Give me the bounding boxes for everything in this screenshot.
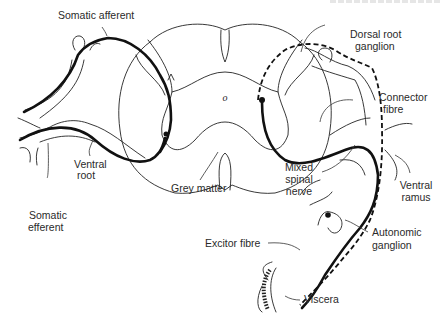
label-connector-fibre-line1: Connector [379, 92, 427, 103]
label-connector-fibre-line2: fibre [383, 104, 403, 115]
label-somatic-afferent: Somatic afferent [58, 10, 134, 21]
label-autonomic-ganglion-line2: ganglion [372, 240, 412, 251]
label-excitor-fibre: Excitor fibre [205, 238, 260, 249]
label-dorsal-root-ganglion-line2: ganglion [355, 41, 395, 52]
label-ventral-root-line2: root [77, 170, 95, 181]
label-dorsal-root-ganglion-line1: Dorsal root [350, 29, 401, 40]
somatic-afferent-pathway [24, 38, 171, 152]
label-autonomic-ganglion-line1: Autonomic [372, 227, 422, 238]
label-mixed-spinal-nerve-line2: spinal [280, 174, 318, 185]
label-somatic-efferent-line1: Somatic [29, 210, 67, 221]
label-somatic-efferent-line2: efferent [28, 222, 63, 233]
label-ventral-ramus-line1: Ventral [395, 180, 437, 191]
autonomic-ganglion-cell [325, 212, 331, 218]
dorsal-root-ganglion [318, 48, 332, 62]
label-mixed-spinal-nerve-line3: nerve [280, 186, 318, 197]
left-nerve-roots [18, 36, 145, 165]
label-grey-matter: Grey matter [171, 183, 226, 194]
label-viscera: Viscera [304, 294, 339, 305]
connector-fibre-pathway [262, 102, 378, 308]
left-motor-neuron [164, 132, 169, 137]
central-canal: o [223, 92, 228, 103]
lateral-horn-cell [259, 97, 265, 103]
label-mixed-spinal-nerve-line1: Mixed [280, 162, 318, 173]
visceral-afferent-pathway [258, 44, 382, 305]
label-ventral-ramus-line2: ramus [395, 192, 437, 203]
viscera-shape [258, 262, 276, 312]
